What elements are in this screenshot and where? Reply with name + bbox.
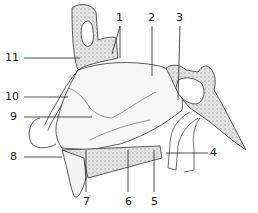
label-9: 9 [10,111,17,122]
nasal-cavity-diagram: 1 2 3 4 5 6 7 8 9 10 11 [0,0,258,213]
label-2: 2 [148,12,155,23]
nasal-cavity-wall [56,63,183,150]
label-5: 5 [151,196,158,207]
label-8: 8 [10,151,17,162]
frontal-bone [72,5,118,70]
label-3: 3 [176,12,183,23]
premaxilla [62,150,86,197]
label-7: 7 [83,196,90,207]
label-4: 4 [210,147,217,158]
label-6: 6 [125,196,132,207]
label-10: 10 [5,91,19,102]
label-11: 11 [5,52,19,63]
label-1: 1 [116,12,123,23]
diagram-drawing [0,0,258,213]
